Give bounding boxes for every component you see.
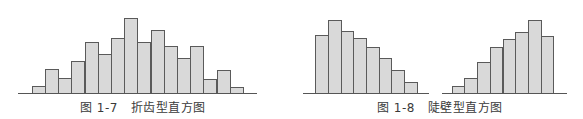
- histogram-bar: [315, 35, 329, 94]
- histogram-bar: [217, 70, 231, 94]
- histogram-bar: [490, 47, 504, 94]
- histogram-bar: [515, 32, 529, 94]
- histogram-bar: [177, 58, 191, 94]
- histogram-bar: [528, 20, 542, 94]
- histogram-bar: [190, 46, 204, 94]
- histogram-bar: [124, 18, 138, 94]
- histogram-bar: [164, 46, 178, 94]
- histogram-bar: [111, 38, 125, 94]
- histogram-bar: [366, 47, 380, 94]
- caption-fig-1-8: 图 1-8 陡壁型直方图: [377, 98, 503, 115]
- x-axis-baseline: [18, 93, 257, 94]
- histogram-bar: [503, 39, 517, 94]
- histogram-bar: [203, 79, 217, 94]
- caption-fig-1-7: 图 1-7 折齿型直方图: [80, 98, 206, 115]
- histogram-bar: [541, 36, 555, 94]
- x-axis-baseline: [303, 93, 429, 94]
- histogram-bar: [391, 70, 405, 94]
- histogram-bar: [58, 78, 72, 94]
- histogram-bar: [477, 62, 491, 94]
- histogram-bar: [341, 31, 355, 94]
- histogram-bar: [151, 30, 165, 94]
- histogram-bar: [85, 42, 99, 94]
- histogram-bar: [137, 42, 151, 94]
- histogram-bar: [45, 69, 59, 94]
- histogram-bar: [353, 38, 367, 94]
- histogram-bar: [464, 78, 478, 94]
- histogram-bar: [71, 61, 85, 94]
- x-axis-baseline: [442, 93, 567, 94]
- histogram-bar: [98, 54, 112, 94]
